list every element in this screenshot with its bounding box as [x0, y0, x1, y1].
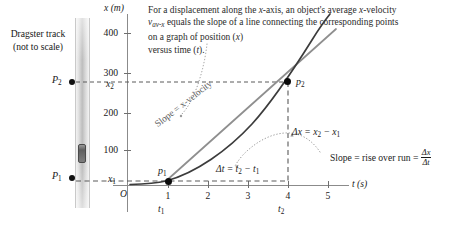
- data-point-p1: [165, 178, 172, 185]
- dotted-leader-slope-velocity-endpoint: [180, 115, 182, 117]
- label-p2-sub: 2: [301, 81, 305, 89]
- axis-value-label-t1: t1: [158, 203, 164, 216]
- label-x2-sub: 2: [110, 83, 114, 91]
- annotation-delta-x: Δx = x2 − x1: [292, 126, 340, 139]
- data-point-label-p1: p1: [158, 165, 167, 178]
- label-p1-sub: 1: [163, 170, 167, 178]
- label-x1-sub: 1: [112, 178, 116, 186]
- axis-value-label-x2: x2: [106, 78, 114, 91]
- delta-x-sub-2: 1: [337, 131, 341, 139]
- delta-x-text-1: Δx = x: [292, 126, 317, 137]
- data-point-p2: [284, 78, 291, 85]
- annotation-delta-t: Δt = t2 − t1: [216, 163, 259, 176]
- plot-curves: [0, 0, 463, 226]
- axis-value-label-t2: t2: [278, 203, 284, 216]
- label-t2-sub: 2: [281, 208, 285, 216]
- delta-x-text-2: − x: [321, 126, 337, 137]
- secant-line-average-velocity: [166, 29, 336, 181]
- slope-fraction-denominator: Δt: [421, 158, 432, 167]
- figure-average-velocity: Dragster track (not to scale) P2 P1 For …: [0, 0, 463, 226]
- axis-value-label-x1: x1: [108, 173, 116, 186]
- position-curve: [130, 14, 330, 185]
- annotation-slope-rise-over-run: Slope = rise over run = ΔxΔt: [330, 148, 431, 167]
- delta-t-text-1: Δt = t: [216, 163, 238, 174]
- slope-fraction: ΔxΔt: [421, 148, 432, 167]
- delta-t-text-2: − t: [242, 163, 256, 174]
- delta-t-sub-2: 1: [256, 168, 260, 176]
- slope-rise-run-text: Slope = rise over run =: [330, 152, 421, 163]
- slope-fraction-numerator: Δx: [421, 148, 432, 158]
- data-point-label-p2: p2: [296, 76, 305, 89]
- label-t1-sub: 1: [161, 208, 165, 216]
